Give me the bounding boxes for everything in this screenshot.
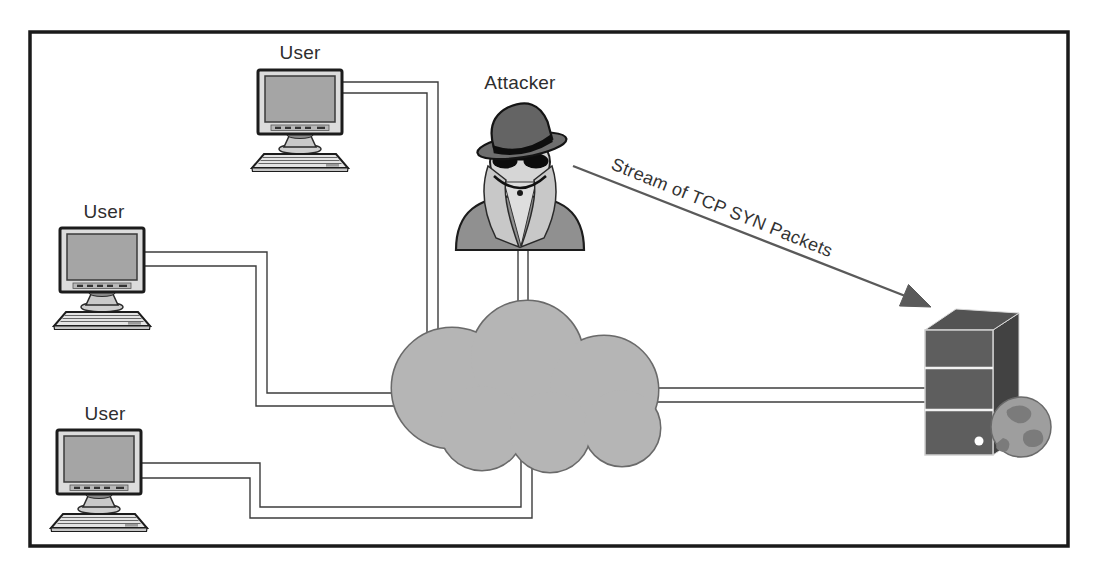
user-label-top: User bbox=[252, 42, 348, 64]
attacker-label: Attacker bbox=[466, 72, 574, 94]
user-label-middle: User bbox=[56, 201, 152, 223]
desktop-computer-icon bbox=[51, 430, 147, 532]
user-label-bottom: User bbox=[57, 403, 153, 425]
diagram-page: User User User Attacker Stream of TCP SY… bbox=[0, 0, 1103, 571]
globe-icon bbox=[991, 397, 1051, 457]
desktop-computer-icon bbox=[54, 228, 150, 330]
desktop-computer-icon bbox=[252, 70, 348, 172]
